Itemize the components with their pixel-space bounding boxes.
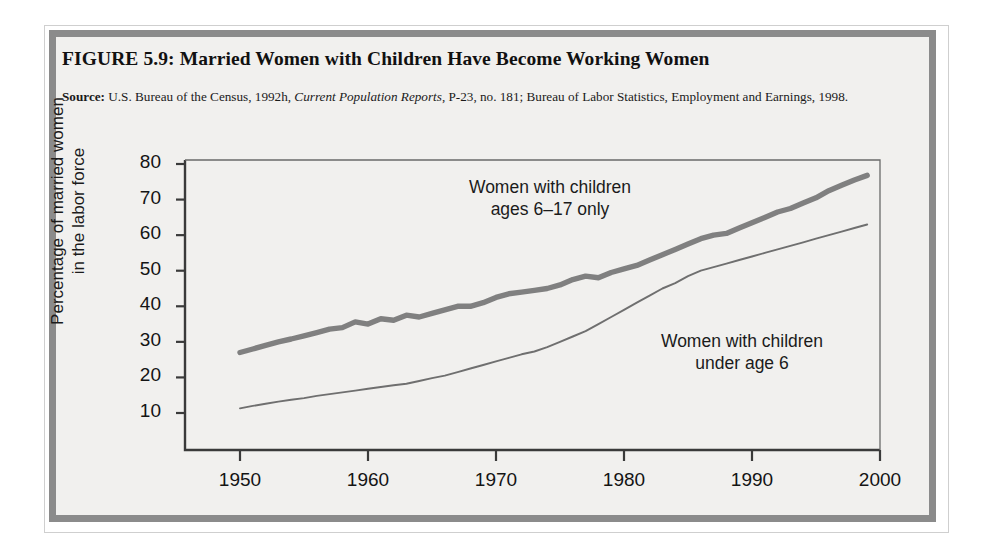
x-tick-label: 1980 xyxy=(584,469,664,491)
annotation-ages-6-17-line1: Women with children xyxy=(400,176,700,198)
series-line-under-age-6 xyxy=(240,225,867,409)
y-tick-label: 20 xyxy=(117,364,161,386)
x-tick-label: 1990 xyxy=(712,469,792,491)
annotation-under-age-6-line2: under age 6 xyxy=(592,352,892,374)
annotation-under-age-6: Women with children under age 6 xyxy=(592,330,892,374)
y-axis-title-line2: in the labor force xyxy=(68,91,89,331)
y-tick-label: 10 xyxy=(117,400,161,422)
annotation-ages-6-17: Women with children ages 6–17 only xyxy=(400,176,700,220)
y-tick-label: 60 xyxy=(117,222,161,244)
y-tick-label: 70 xyxy=(117,187,161,209)
figure-root: FIGURE 5.9: Married Women with Children … xyxy=(0,0,989,556)
annotation-under-age-6-line1: Women with children xyxy=(592,330,892,352)
y-axis-title: Percentage of married women in the labor… xyxy=(47,91,89,331)
x-tick-label: 2000 xyxy=(840,469,920,491)
x-tick-label: 1950 xyxy=(200,469,280,491)
y-axis-title-line1: Percentage of married women xyxy=(47,91,68,331)
y-tick-label: 40 xyxy=(117,293,161,315)
y-tick-label: 30 xyxy=(117,329,161,351)
y-tick-label: 80 xyxy=(117,151,161,173)
y-tick-label: 50 xyxy=(117,258,161,280)
x-tick-label: 1970 xyxy=(456,469,536,491)
annotation-ages-6-17-line2: ages 6–17 only xyxy=(400,198,700,220)
x-tick-label: 1960 xyxy=(328,469,408,491)
